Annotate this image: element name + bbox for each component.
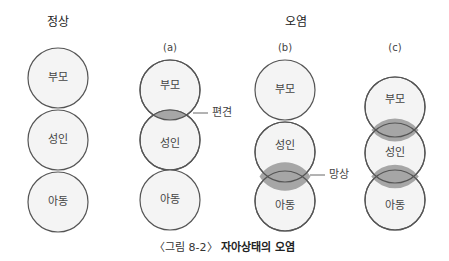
subheader-c: (c) bbox=[388, 42, 401, 53]
contamination-a-group: 부모 성인 아동 편견 bbox=[140, 60, 232, 230]
adult-label: 성인 bbox=[385, 146, 405, 159]
ego-state-contamination-diagram: 정상 오염 (a) (b) (c) 부모 성인 아동 부모 성인 아동 편견 부… bbox=[0, 0, 449, 261]
child-label: 아동 bbox=[48, 195, 68, 208]
child-label: 아동 bbox=[160, 193, 180, 206]
caption-title: 자아상태의 오염 bbox=[221, 241, 295, 254]
adult-label: 성인 bbox=[160, 137, 180, 150]
header-normal: 정상 bbox=[47, 15, 69, 29]
child-label: 아동 bbox=[385, 199, 405, 212]
parent-label: 부모 bbox=[48, 71, 68, 84]
annotation-delusion: 망상 bbox=[329, 168, 349, 181]
contamination-c-group: 부모 성인 아동 bbox=[365, 77, 425, 230]
caption-number: 〈그림 8-2〉 bbox=[154, 241, 217, 254]
header-contaminated: 오염 bbox=[285, 15, 307, 29]
adult-label: 성인 bbox=[275, 139, 295, 152]
child-label: 아동 bbox=[275, 199, 295, 212]
parent-label: 부모 bbox=[385, 93, 405, 106]
parent-label: 부모 bbox=[160, 79, 180, 92]
parent-label: 부모 bbox=[275, 83, 295, 96]
subheader-a: (a) bbox=[163, 42, 177, 53]
normal-group: 부모 성인 아동 bbox=[28, 48, 88, 232]
adult-label: 성인 bbox=[48, 133, 68, 146]
figure-caption: 〈그림 8-2〉 자아상태의 오염 bbox=[0, 238, 449, 254]
annotation-prejudice: 편견 bbox=[212, 106, 232, 119]
contamination-b-group: 부모 성인 아동 망상 bbox=[255, 60, 349, 231]
subheader-b: (b) bbox=[278, 42, 292, 53]
